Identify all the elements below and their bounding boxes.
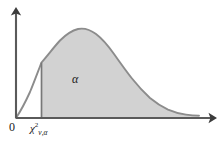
shaded-area-label: α (72, 73, 78, 85)
origin-label: 0 (9, 121, 15, 133)
critical-value-subscript: ν,α (38, 128, 47, 137)
shaded-alpha-region (42, 29, 200, 118)
critical-value-label: χ2ν,α (30, 122, 47, 136)
chi-square-figure: 0 α χ2ν,α (0, 0, 222, 148)
